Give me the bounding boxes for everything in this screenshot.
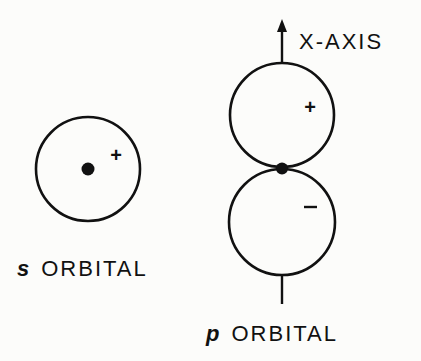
s-orbital-caption-text: ORBITAL bbox=[41, 256, 148, 281]
p-orbital-upper-lobe bbox=[230, 63, 334, 167]
orbital-diagram: + + bbox=[0, 0, 421, 361]
s-orbital-caption: sORBITAL bbox=[17, 258, 148, 280]
s-orbital-nucleus bbox=[82, 163, 95, 176]
s-orbital-letter: s bbox=[17, 256, 31, 281]
s-orbital-sign: + bbox=[110, 144, 122, 166]
p-orbital-caption: pORBITAL bbox=[206, 323, 338, 345]
s-orbital: + bbox=[36, 117, 140, 221]
p-orbital-nucleus bbox=[276, 163, 288, 175]
x-axis-label-text: X-AXIS bbox=[299, 29, 383, 54]
p-orbital: + bbox=[229, 19, 335, 304]
x-axis-arrow-icon bbox=[277, 19, 287, 32]
p-orbital-letter: p bbox=[206, 321, 221, 346]
p-orbital-upper-sign: + bbox=[304, 96, 316, 118]
p-orbital-caption-text: ORBITAL bbox=[231, 321, 338, 346]
x-axis-label: X-AXIS bbox=[299, 31, 383, 53]
p-orbital-lower-lobe bbox=[229, 169, 335, 275]
